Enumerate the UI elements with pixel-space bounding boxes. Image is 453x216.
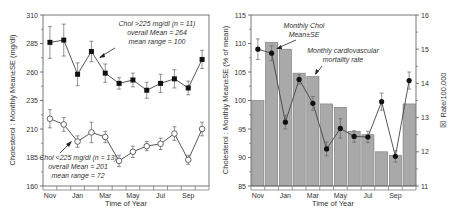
data-point-marker bbox=[393, 154, 398, 159]
y-tick-label: 85 bbox=[238, 183, 246, 190]
data-point-marker bbox=[144, 88, 149, 93]
mortality-bar bbox=[307, 77, 319, 186]
y2-tick-label: 16 bbox=[421, 12, 429, 19]
y-tick-label: 105 bbox=[234, 69, 246, 76]
data-point-marker bbox=[61, 122, 67, 128]
data-point-marker bbox=[130, 149, 136, 155]
y-tick-label: 110 bbox=[235, 40, 246, 47]
x-tick-label: Mar bbox=[307, 192, 320, 199]
mortality-bar bbox=[293, 73, 305, 186]
y-tick-label: 260 bbox=[26, 69, 38, 76]
right-left-y-axis: 859095100105110115 bbox=[234, 12, 251, 190]
left-y-axis: 160185210235260285310 bbox=[26, 12, 43, 190]
x-tick-label: Jan bbox=[280, 192, 291, 199]
mortality-bar bbox=[252, 101, 264, 187]
data-point-marker bbox=[297, 77, 302, 82]
arrowhead-icon bbox=[99, 53, 105, 58]
data-point-marker bbox=[365, 134, 370, 139]
annotation-high-chol: Chol >225 mg/dl (n = 11) overall Mean = … bbox=[99, 20, 195, 58]
data-point-marker bbox=[75, 139, 81, 145]
data-point-marker bbox=[269, 51, 274, 56]
data-point-marker bbox=[310, 101, 315, 106]
y-tick-label: 90 bbox=[238, 154, 246, 161]
y-tick-label: 210 bbox=[26, 126, 38, 133]
data-point-marker bbox=[89, 130, 95, 136]
y-tick-label: 160 bbox=[26, 183, 38, 190]
annotation-low-chol: Chol <225 mg/dl (n = 13) overall Mean = … bbox=[39, 141, 116, 180]
data-point-marker bbox=[103, 71, 108, 76]
annotation-chol: Monthly Chol Mean±SE bbox=[276, 22, 325, 49]
data-point-marker bbox=[186, 85, 191, 90]
right-y2-axis-label: ☒Rate/100,000 bbox=[439, 72, 448, 127]
ann-high-line2: overall Mean = 264 bbox=[127, 29, 187, 36]
right-x-axis-label: Time of Year bbox=[312, 199, 354, 208]
ann-low-line2: overall Mean = 201 bbox=[48, 163, 108, 170]
data-point-marker bbox=[255, 47, 260, 52]
x-tick-label: Sep bbox=[182, 192, 195, 200]
x-tick-label: Mar bbox=[99, 192, 112, 199]
data-point-marker bbox=[116, 158, 122, 164]
data-point-marker bbox=[144, 143, 150, 149]
data-point-marker bbox=[185, 157, 191, 163]
data-point-marker bbox=[352, 134, 357, 139]
left-series bbox=[47, 24, 205, 167]
data-point-marker bbox=[172, 131, 178, 137]
left-x-axis-label: Time of Year bbox=[105, 199, 147, 208]
figure: 160185210235260285310 NovJanMarMayJulSep… bbox=[0, 0, 453, 216]
y2-tick-label: 13 bbox=[421, 114, 429, 121]
ann-low-line1: Chol <225 mg/dl (n = 13) bbox=[39, 154, 116, 162]
y2-tick-label: 12 bbox=[421, 148, 429, 155]
ann-chol-line2: Mean±SE bbox=[289, 31, 320, 38]
data-point-marker bbox=[200, 57, 205, 62]
y-tick-label: 185 bbox=[26, 154, 38, 161]
data-point-marker bbox=[47, 40, 52, 45]
data-point-marker bbox=[283, 120, 288, 125]
x-tick-label: Nov bbox=[252, 192, 265, 199]
mortality-bar bbox=[266, 42, 278, 186]
mortality-bar bbox=[376, 152, 388, 186]
x-tick-label: Jul bbox=[156, 192, 165, 199]
y-tick-label: 310 bbox=[26, 12, 38, 19]
rate-symbol-icon: ☒ bbox=[439, 121, 448, 128]
data-point-marker bbox=[379, 99, 384, 104]
x-tick-label: Sep bbox=[389, 192, 402, 200]
data-point-marker bbox=[407, 78, 412, 83]
series-line bbox=[50, 40, 202, 90]
ann-mort-line2: mortality rate bbox=[323, 56, 364, 64]
y-tick-label: 235 bbox=[26, 97, 38, 104]
data-point-marker bbox=[324, 146, 329, 151]
ann-low-line3: mean range = 72 bbox=[51, 172, 104, 180]
ann-mort-line1: Monthly cardiovascular bbox=[307, 47, 379, 55]
x-tick-label: Jul bbox=[363, 192, 372, 199]
arrowhead-icon bbox=[315, 69, 319, 75]
y-tick-label: 285 bbox=[26, 40, 38, 47]
right-y-axis-label: Cholesterol : Monthly Mean±SE (% of mean… bbox=[221, 25, 230, 174]
ann-high-line1: Chol >225 mg/dl (n = 11) bbox=[119, 20, 196, 28]
data-point-marker bbox=[172, 76, 177, 81]
x-tick-label: Nov bbox=[44, 192, 57, 199]
y-tick-label: 95 bbox=[238, 126, 246, 133]
data-point-marker bbox=[130, 77, 135, 82]
data-point-marker bbox=[158, 81, 163, 86]
right-right-y-axis: 111213141516 bbox=[416, 12, 429, 190]
left-chart: 160185210235260285310 NovJanMarMayJulSep… bbox=[8, 12, 209, 209]
left-x-axis: NovJanMarMayJulSep bbox=[43, 186, 209, 200]
data-point-marker bbox=[89, 49, 94, 54]
annotation-mortality: Monthly cardiovascular mortality rate bbox=[307, 47, 379, 75]
data-point-marker bbox=[338, 126, 343, 131]
y2-tick-label: 14 bbox=[421, 80, 429, 87]
mortality-bar bbox=[403, 104, 415, 186]
data-point-marker bbox=[158, 141, 164, 147]
left-y-axis-label: Cholesterol : Monthly Mean±SE (mg/dl) bbox=[8, 34, 17, 165]
y2-tick-label: 11 bbox=[421, 183, 428, 190]
y-tick-label: 100 bbox=[234, 97, 246, 104]
ann-chol-line1: Monthly Chol bbox=[284, 22, 325, 30]
right-chart: 859095100105110115 111213141516 NovJanMa… bbox=[221, 12, 448, 209]
right-x-axis: NovJanMarMayJulSep bbox=[251, 186, 416, 200]
data-point-marker bbox=[117, 81, 122, 86]
data-point-marker bbox=[199, 126, 205, 132]
y-tick-label: 115 bbox=[235, 12, 246, 19]
mortality-bars bbox=[252, 42, 415, 186]
x-tick-label: Jan bbox=[72, 192, 83, 199]
data-point-marker bbox=[75, 72, 80, 77]
